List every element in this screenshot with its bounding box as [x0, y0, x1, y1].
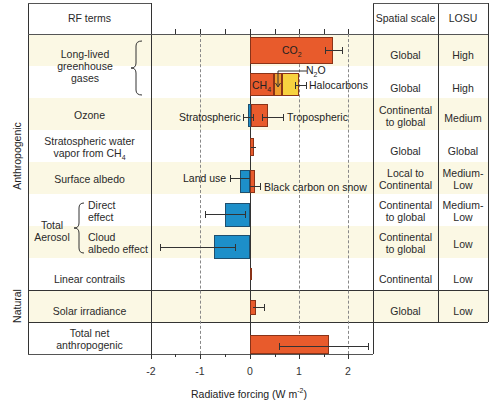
label-part: vapor from CH	[53, 147, 121, 159]
losu-line: Medium-	[438, 167, 488, 179]
label-strat-wv: Stratospheric water vapor from CH4	[28, 135, 151, 164]
bar-label-land-use: Land use	[183, 172, 226, 184]
label-col-border	[151, 3, 152, 354]
error-cap	[325, 47, 326, 54]
losu-ozone: Medium	[438, 112, 488, 124]
error-cap	[260, 183, 261, 190]
aerosol-brace-icon	[72, 202, 86, 254]
error-cap	[295, 82, 296, 89]
bar-land-use	[240, 170, 250, 193]
tick-top	[299, 29, 300, 34]
tick-label: 1	[289, 365, 309, 377]
label-line: Aerosol	[30, 231, 74, 243]
x-axis-label-end: )	[303, 388, 307, 400]
losu-line: Medium-	[438, 199, 488, 211]
losu-line: Low	[438, 211, 488, 223]
losu-cloud: Low	[438, 238, 488, 250]
scale-ozone: Continental to global	[373, 104, 438, 128]
tick-bottom	[250, 354, 251, 359]
x-axis-label: Radiative forcing (W m-2)	[191, 387, 307, 400]
tick-top	[275, 29, 276, 34]
grid-minus1	[200, 34, 201, 354]
bar-black-carbon	[250, 170, 255, 193]
tick-top	[348, 29, 349, 34]
error-ozone-strat	[243, 117, 253, 118]
bar-aerosol-direct	[225, 203, 250, 227]
label-top-border	[28, 3, 151, 4]
scale-line: Local to	[373, 167, 438, 179]
natural-top	[28, 290, 488, 291]
losu-strat-wv: Global	[438, 145, 488, 157]
error-co2	[325, 50, 342, 51]
tick-label: -1	[190, 365, 210, 377]
scale-ch4: Global	[373, 82, 438, 94]
error-cap	[342, 47, 343, 54]
scale-line: Continental	[373, 199, 438, 211]
tick-bottom	[175, 354, 176, 357]
bar-total-net	[250, 335, 329, 354]
losu-solar: Low	[438, 305, 488, 317]
error-cloud-albedo	[160, 247, 235, 248]
label-llghg: Long-lived greenhouse gases	[40, 48, 130, 84]
bar-label-stratospheric: Stratospheric	[179, 111, 241, 123]
header-losu: LOSU	[438, 12, 488, 24]
bar-label-co2: CO2	[282, 44, 302, 58]
scale-solar: Global	[373, 305, 438, 317]
natural-bottom	[28, 322, 488, 323]
natural-label: Natural	[11, 281, 23, 331]
label-line: Total	[30, 219, 74, 231]
label-contrails: Linear contrails	[28, 273, 151, 285]
tick-bottom	[151, 354, 152, 359]
n2o-pointer-icon	[274, 66, 308, 90]
error-cap	[283, 114, 284, 121]
label-line: greenhouse	[40, 60, 130, 72]
tick-label: 0	[240, 365, 260, 377]
label-line: effect	[88, 211, 115, 223]
losu-surface-albedo: Medium- Low	[438, 167, 488, 191]
right-top-border	[373, 3, 488, 4]
losu-contrails: Low	[438, 273, 488, 285]
error-cap	[235, 244, 236, 251]
tick-bottom	[225, 354, 226, 357]
tick-bottom	[348, 354, 349, 359]
losu-co2: High	[438, 49, 488, 61]
scale-direct: Continental to global	[373, 199, 438, 223]
llghg-brace-icon	[122, 40, 144, 96]
error-cap	[230, 175, 231, 182]
label-line: albedo effect	[88, 243, 148, 255]
tick-top	[324, 29, 325, 34]
label-solar: Solar irradiance	[28, 305, 151, 317]
error-ozone-trop	[262, 117, 283, 118]
bar-label-tropospheric: Tropospheric	[287, 111, 348, 123]
label-line: Total net	[28, 327, 151, 339]
scale-line: to global	[373, 243, 438, 255]
error-cap	[264, 304, 265, 311]
header-rf-terms: RF terms	[28, 12, 151, 24]
scale-surface-albedo: Local to Continental	[373, 167, 438, 191]
tick-top	[175, 29, 176, 34]
error-cap	[279, 343, 280, 350]
error-cap	[306, 82, 307, 89]
error-cap	[160, 244, 161, 251]
tick-bottom	[275, 354, 276, 357]
anthropogenic-label: Anthropogenic	[11, 116, 23, 196]
error-black-carbon	[250, 186, 260, 187]
scale-line: to global	[373, 211, 438, 223]
label-part: CO	[282, 44, 298, 56]
label-line: anthropogenic	[28, 339, 151, 351]
tick-top	[200, 29, 201, 34]
label-line: gases	[40, 72, 130, 84]
error-strat-wv	[251, 147, 256, 148]
tick-label: 2	[338, 365, 358, 377]
error-cap	[245, 211, 246, 218]
label-direct-effect: Direct effect	[88, 199, 115, 223]
scale-line: Continental	[373, 231, 438, 243]
tick-top	[225, 29, 226, 34]
tick-bottom	[200, 354, 201, 359]
losu-direct: Medium- Low	[438, 199, 488, 223]
error-land-use	[230, 178, 250, 179]
label-line: vapor from CH4	[28, 147, 151, 164]
error-total-net	[279, 346, 368, 347]
label-part: CH	[252, 79, 267, 91]
error-cap	[368, 343, 369, 350]
